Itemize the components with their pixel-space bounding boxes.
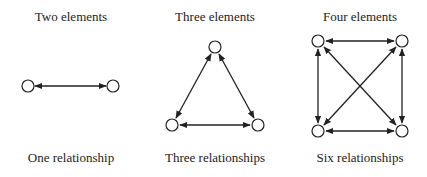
node: [252, 119, 264, 131]
node: [312, 35, 324, 47]
node: [396, 125, 408, 137]
edge: [176, 54, 211, 118]
node: [166, 119, 178, 131]
node: [22, 80, 34, 92]
node: [107, 80, 119, 92]
edge: [219, 54, 254, 118]
relationship-diagram: [0, 0, 427, 177]
node: [312, 125, 324, 137]
node: [396, 35, 408, 47]
node: [209, 41, 221, 53]
